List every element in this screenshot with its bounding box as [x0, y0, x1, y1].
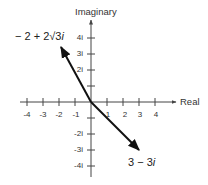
- y-tick-label: 3i: [63, 49, 83, 58]
- x-tick-label: -3: [39, 110, 46, 119]
- real-axis-label: Real: [180, 96, 200, 107]
- imaginary-axis-label: Imaginary: [75, 6, 117, 17]
- vector-label-neg2-plus-2sqrt3i: − 2 + 2√3i: [15, 30, 64, 42]
- x-tick-label: -1: [72, 110, 79, 119]
- x-tick-label: 1: [106, 110, 110, 119]
- complex-plane-graphic: [0, 0, 208, 185]
- vector-label-3-minus-3i: 3 − 3i: [128, 156, 155, 168]
- x-tick-label: 4: [154, 110, 158, 119]
- y-tick-label: -3i: [63, 145, 83, 154]
- vector-3-minus-3i: [91, 102, 139, 150]
- x-tick-label: 2: [123, 110, 127, 119]
- x-tick-label: 3: [138, 110, 142, 119]
- x-tick-label: -4: [23, 110, 30, 119]
- y-tick-label: 4i: [63, 33, 83, 42]
- y-tick-label: -2i: [63, 129, 83, 138]
- y-tick-label: -4i: [63, 161, 83, 170]
- x-tick-label: -2: [55, 110, 62, 119]
- y-tick-label: 2i: [63, 65, 83, 74]
